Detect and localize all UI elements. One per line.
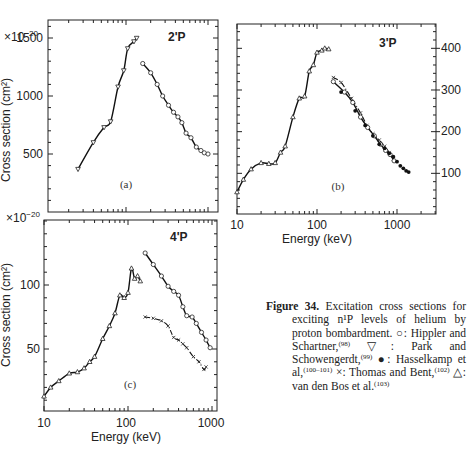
panel-c-plot-area	[42, 251, 213, 398]
data-point-open-circle-icon	[141, 61, 145, 65]
panel-b-ytick-300: 300	[441, 83, 461, 97]
data-point-filled-circle-icon	[387, 151, 391, 155]
data-point-cross-icon	[181, 342, 184, 345]
data-point-open-circle-icon	[171, 110, 175, 114]
data-point-up-triangle-icon	[126, 290, 131, 294]
data-point-open-circle-icon	[194, 145, 198, 149]
data-point-cross-icon	[197, 360, 200, 363]
panel-b-ytick-200: 200	[441, 124, 461, 138]
panel-c-y-multiplier: ×10−20	[6, 210, 40, 225]
panel-a-plot-area	[76, 36, 210, 171]
data-point-open-circle-icon	[151, 262, 155, 266]
data-point-open-circle-icon	[206, 152, 210, 156]
panel-c-x-axis-label: Energy (keV)	[91, 430, 161, 444]
caption-figure-label: Figure 34.	[266, 300, 319, 312]
legend-entry-thomas: ×: Thomas and Bent,(102)	[336, 366, 450, 378]
data-point-open-circle-icon	[351, 100, 355, 104]
data-point-filled-circle-icon	[353, 109, 357, 113]
panel-c-4p: ×10−20 100 50 4'P (c) 10 100 1000 Energy…	[0, 210, 225, 444]
open-circle-icon: ○	[396, 327, 404, 339]
panel-c-ytick-100: 100	[20, 278, 40, 292]
panel-c-title: 4'P	[170, 230, 188, 244]
data-point-down-triangle-icon	[121, 69, 126, 73]
data-point-open-circle-icon	[166, 284, 170, 288]
data-point-up-triangle-icon	[138, 279, 143, 283]
data-point-open-circle-icon	[184, 131, 188, 135]
panel-a-ytick-1500: 1500	[16, 31, 43, 45]
panel-b-ytick-100: 100	[441, 166, 461, 180]
data-point-open-circle-icon	[181, 305, 185, 309]
data-point-up-triangle-icon	[302, 94, 307, 98]
panel-a-ytick-500: 500	[23, 147, 43, 161]
data-point-down-triangle-icon	[125, 47, 130, 51]
data-point-up-triangle-icon	[291, 115, 296, 119]
data-point-open-circle-icon	[149, 71, 153, 75]
data-point-filled-circle-icon	[391, 155, 395, 159]
panel-a-ytick-1000: 1000	[16, 89, 43, 103]
panel-a-frame	[48, 20, 218, 212]
panel-b-xtick-10: 10	[230, 218, 244, 232]
panel-a-y-axis-label: Cross section (cm²)	[0, 78, 13, 182]
panel-c-xtick-10: 10	[37, 416, 51, 430]
data-point-open-circle-icon	[176, 115, 180, 119]
panel-a-2p: ×10−20 1500 1000 500 2'P (a) Cross secti…	[0, 20, 218, 212]
data-point-filled-circle-icon	[398, 164, 402, 168]
data-point-open-circle-icon	[161, 94, 165, 98]
data-point-open-circle-icon	[189, 136, 193, 140]
data-point-open-circle-icon	[176, 293, 180, 297]
data-point-filled-circle-icon	[395, 160, 399, 164]
series-curve	[78, 38, 137, 169]
data-point-open-circle-icon	[358, 115, 362, 119]
data-point-down-triangle-icon	[76, 167, 81, 171]
panel-a-label: (a)	[120, 178, 133, 191]
panel-b-xtick-100: 100	[307, 218, 327, 232]
data-point-open-circle-icon	[185, 314, 189, 318]
cross-icon: ×	[336, 366, 343, 378]
data-point-filled-circle-icon	[371, 134, 375, 138]
panel-c-xtick-1000: 1000	[198, 416, 225, 430]
data-point-open-circle-icon	[155, 82, 159, 86]
filled-circle-icon: ●	[378, 353, 388, 365]
data-point-filled-circle-icon	[407, 170, 411, 174]
panel-c-ytick-50: 50	[27, 342, 41, 356]
data-point-cross-icon	[172, 336, 175, 339]
data-point-filled-circle-icon	[363, 124, 367, 128]
figure-caption: Figure 34. Excitation cross sections for…	[266, 300, 466, 393]
data-point-filled-circle-icon	[383, 146, 387, 150]
data-point-open-circle-icon	[166, 103, 170, 107]
data-point-open-circle-icon	[143, 251, 147, 255]
data-point-open-circle-icon	[199, 330, 203, 334]
up-triangle-icon: △	[453, 366, 463, 378]
data-point-open-circle-icon	[204, 338, 208, 342]
panel-b-label: (b)	[332, 180, 345, 193]
data-point-filled-circle-icon	[377, 142, 381, 146]
panel-b-x-axis-label: Energy (keV)	[282, 232, 352, 246]
panel-b-title: 3'P	[379, 36, 397, 50]
data-point-cross-icon	[192, 355, 195, 358]
data-point-filled-circle-icon	[339, 90, 343, 94]
data-point-open-circle-icon	[172, 289, 176, 293]
data-point-down-triangle-icon	[116, 85, 121, 89]
data-point-open-circle-icon	[331, 80, 335, 84]
figure-canvas: ×10−20 1500 1000 500 2'P (a) Cross secti…	[0, 0, 473, 464]
panel-b-plot-area	[235, 46, 411, 194]
data-point-open-circle-icon	[190, 315, 194, 319]
data-point-up-triangle-icon	[283, 144, 288, 148]
down-triangle-icon: ▽	[367, 340, 390, 352]
data-point-open-circle-icon	[159, 274, 163, 278]
panel-b-xtick-1000: 1000	[384, 218, 411, 232]
data-point-cross-icon	[166, 324, 169, 327]
data-point-open-circle-icon	[180, 121, 184, 125]
panel-b-ytick-400: 400	[441, 41, 461, 55]
panel-a-title: 2'P	[168, 30, 186, 44]
panel-a-ticks	[48, 20, 218, 212]
data-point-up-triangle-icon	[129, 266, 134, 270]
data-point-cross-icon	[339, 81, 342, 84]
data-point-down-triangle-icon	[108, 120, 113, 124]
data-point-open-circle-icon	[194, 321, 198, 325]
panel-c-y-axis-label: Cross section (cm²)	[0, 263, 13, 367]
data-point-open-circle-icon	[208, 346, 212, 350]
data-point-up-triangle-icon	[113, 311, 118, 315]
panel-b-3p: 400 300 200 100 3'P (b) 10 100 1000 Ener…	[230, 24, 461, 246]
data-point-up-triangle-icon	[311, 62, 316, 66]
